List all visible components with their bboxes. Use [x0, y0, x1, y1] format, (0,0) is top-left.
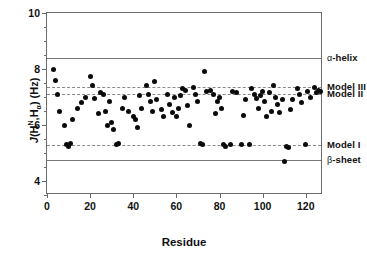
- data-point: [299, 100, 304, 105]
- data-point: [111, 127, 116, 132]
- y-axis-minor-tick: [44, 111, 47, 112]
- data-point: [286, 145, 291, 150]
- data-point: [159, 107, 164, 112]
- data-point: [277, 110, 282, 115]
- figure-root: 46810 020406080100120 α-helixModel IIIMo…: [0, 0, 367, 258]
- x-axis-tick: [90, 193, 91, 198]
- x-axis-tick: [220, 193, 221, 198]
- data-point: [167, 102, 172, 107]
- x-axis-tick: [263, 193, 264, 198]
- data-point: [280, 97, 285, 102]
- data-point: [79, 100, 84, 105]
- data-point: [228, 142, 233, 147]
- data-point: [191, 85, 196, 90]
- data-point: [318, 89, 323, 94]
- data-point: [295, 86, 300, 91]
- annotation-model-ii: Model II: [327, 88, 363, 99]
- annotation-model-i: Model I: [327, 139, 360, 150]
- data-point: [174, 114, 179, 119]
- data-point: [57, 109, 62, 114]
- y-axis-minor-tick: [44, 83, 47, 84]
- data-point: [211, 92, 216, 97]
- data-point: [75, 106, 80, 111]
- x-axis-title: Residue: [46, 236, 322, 248]
- data-point: [135, 125, 140, 130]
- reference-line-model-i: [47, 145, 321, 146]
- data-point: [150, 109, 155, 114]
- data-point: [256, 106, 261, 111]
- y-axis-tick: [42, 69, 47, 70]
- x-axis-tick: [133, 193, 134, 198]
- data-point: [146, 92, 151, 97]
- data-point: [249, 86, 254, 91]
- y-axis-tick: [42, 125, 47, 126]
- data-point: [239, 142, 244, 147]
- y-axis-minor-tick: [44, 27, 47, 28]
- data-point: [109, 120, 114, 125]
- data-point: [161, 114, 166, 119]
- y-axis-title-close: ) (Hz): [28, 78, 40, 106]
- data-point: [195, 99, 200, 104]
- data-point: [273, 95, 278, 100]
- data-point: [176, 106, 181, 111]
- y-axis-minor-tick: [44, 153, 47, 154]
- data-point: [68, 141, 73, 146]
- y-axis-title: J(HN,Hα) (Hz): [27, 78, 42, 144]
- data-point: [282, 159, 287, 164]
- data-point: [55, 92, 60, 97]
- data-point: [185, 103, 190, 108]
- y-axis-title-open: (H: [28, 125, 40, 137]
- data-point: [262, 99, 267, 104]
- data-point: [148, 99, 153, 104]
- y-axis-minor-tick: [44, 139, 47, 140]
- reference-line-beta-sheet: [47, 160, 321, 161]
- y-axis-title-sub-alpha: α: [35, 105, 42, 109]
- data-point: [120, 106, 125, 111]
- data-point: [92, 96, 97, 101]
- x-axis-tick-label: 100: [254, 200, 272, 212]
- data-point: [107, 99, 112, 104]
- data-point: [154, 97, 159, 102]
- data-point: [187, 123, 192, 128]
- x-axis-tick-label: 20: [84, 200, 96, 212]
- data-point: [137, 93, 142, 98]
- y-axis-tick: [42, 13, 47, 14]
- data-point: [267, 90, 272, 95]
- data-point: [165, 92, 170, 97]
- y-axis-minor-tick: [44, 167, 47, 168]
- data-point: [241, 113, 246, 118]
- data-point: [126, 109, 131, 114]
- x-axis-tick-label: 120: [297, 200, 315, 212]
- reference-line-alpha-helix: [47, 58, 321, 59]
- data-point: [200, 142, 205, 147]
- y-axis-minor-tick: [44, 55, 47, 56]
- data-point: [183, 88, 188, 93]
- y-axis-tick-label: 8: [34, 63, 40, 75]
- data-point: [62, 123, 67, 128]
- x-axis-tick-label: 60: [171, 200, 183, 212]
- data-point: [51, 67, 56, 72]
- data-point: [202, 69, 207, 74]
- y-axis-tick-label: 10: [28, 7, 40, 19]
- y-axis-title-j: J: [28, 137, 40, 143]
- annotation-beta-sheet-text: -sheet: [332, 154, 361, 165]
- x-axis-tick: [176, 193, 177, 198]
- annotation-alpha-helix: α-helix: [327, 51, 358, 62]
- x-axis-tick-label: 80: [214, 200, 226, 212]
- y-axis-title-comma: ,H: [28, 109, 40, 120]
- data-point: [88, 74, 93, 79]
- data-point: [122, 95, 127, 100]
- data-point: [96, 111, 101, 116]
- x-axis-tick: [306, 193, 307, 198]
- data-point: [101, 92, 106, 97]
- x-axis-tick-label: 40: [127, 200, 139, 212]
- data-point: [308, 95, 313, 100]
- data-point: [275, 102, 280, 107]
- data-point: [152, 79, 157, 84]
- data-point: [139, 106, 144, 111]
- data-point: [178, 93, 183, 98]
- y-axis-tick-label: 4: [34, 175, 40, 187]
- data-point: [172, 95, 177, 100]
- annotation-beta-sheet: β-sheet: [327, 154, 361, 165]
- data-point: [288, 107, 293, 112]
